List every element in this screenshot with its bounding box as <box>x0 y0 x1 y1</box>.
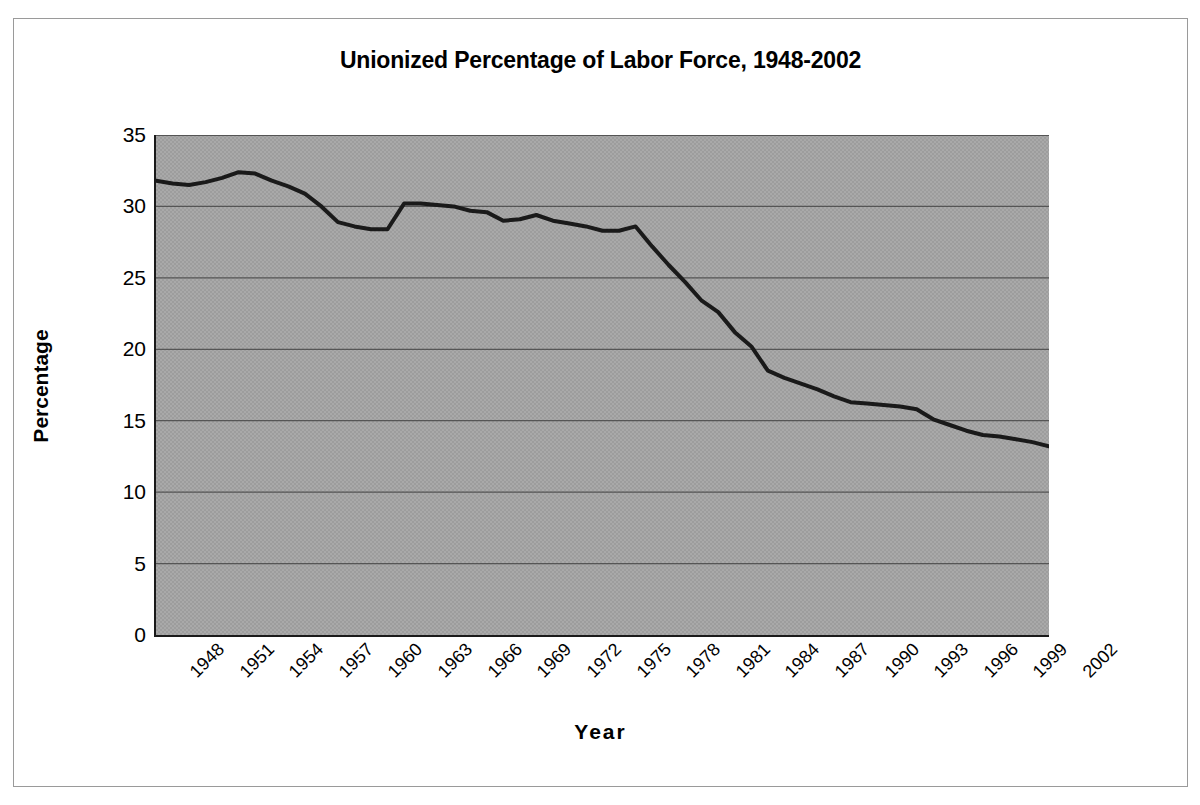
x-tick-label: 1951 <box>235 639 278 682</box>
y-tick-label: 30 <box>100 195 146 216</box>
x-tick-label: 1993 <box>930 639 973 682</box>
x-tick-label: 1954 <box>285 639 328 682</box>
plot-svg <box>156 135 1049 635</box>
x-tick-label: 1981 <box>731 639 774 682</box>
x-tick-label: 1996 <box>979 639 1022 682</box>
y-tick-label: 0 <box>100 624 146 645</box>
y-axis-tick-labels: 05101520253035 <box>92 135 146 635</box>
y-tick-label: 15 <box>100 410 146 431</box>
x-tick-label: 1999 <box>1029 639 1072 682</box>
y-tick-label: 10 <box>100 481 146 502</box>
x-tick-label: 1960 <box>384 639 427 682</box>
x-tick-label: 1972 <box>583 639 626 682</box>
gridlines <box>156 135 1049 564</box>
y-tick-label: 35 <box>100 124 146 145</box>
x-tick-label: 1984 <box>781 639 824 682</box>
x-axis-title: Year <box>14 720 1187 744</box>
y-tick-label: 5 <box>100 553 146 574</box>
x-tick-label: 1987 <box>831 639 874 682</box>
chart-title: Unionized Percentage of Labor Force, 194… <box>14 47 1187 74</box>
x-tick-label: 1969 <box>533 639 576 682</box>
x-tick-label: 1990 <box>880 639 923 682</box>
x-tick-label: 1975 <box>632 639 675 682</box>
x-tick-label: 2002 <box>1079 639 1122 682</box>
x-tick-label: 1948 <box>186 639 229 682</box>
x-tick-label: 1978 <box>682 639 725 682</box>
y-axis-title: Percentage <box>29 306 53 466</box>
chart-figure: Unionized Percentage of Labor Force, 194… <box>13 18 1188 787</box>
x-axis-tick-labels: 1948195119541957196019631966196919721975… <box>154 639 1054 719</box>
x-tick-label: 1957 <box>335 639 378 682</box>
data-line-unionized-percentage <box>156 172 1049 446</box>
y-tick-label: 25 <box>100 267 146 288</box>
x-tick-label: 1963 <box>434 639 477 682</box>
plot-area <box>154 135 1049 637</box>
y-tick-label: 20 <box>100 338 146 359</box>
x-tick-label: 1966 <box>483 639 526 682</box>
